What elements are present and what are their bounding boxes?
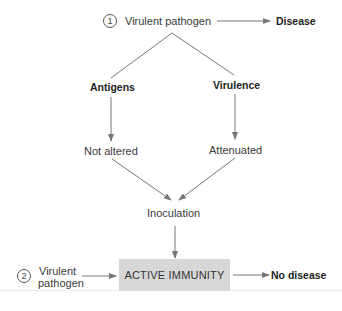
- step-2-badge: 2: [17, 269, 31, 283]
- virulence-label: Virulence: [213, 79, 260, 91]
- virulent-pathogen-label: Virulent pathogen: [125, 15, 211, 27]
- virulent-pathogen-2-label: Virulent pathogen: [38, 265, 84, 289]
- attenuated-label: Attenuated: [209, 144, 262, 156]
- no-disease-label: No disease: [271, 269, 326, 281]
- inoculation-label: Inoculation: [147, 207, 200, 219]
- arrow-attenuated-to-inoculation: [179, 158, 235, 200]
- active-immunity-label: ACTIVE IMMUNITY: [124, 269, 224, 281]
- split-line-right: [172, 33, 234, 75]
- active-immunity-box: ACTIVE IMMUNITY: [119, 259, 230, 291]
- arrow-not-altered-to-inoculation: [112, 159, 171, 200]
- disease-label: Disease: [276, 15, 316, 27]
- virulent-pathogen-2-line1: Virulent: [38, 265, 84, 277]
- antigens-label: Antigens: [90, 81, 135, 93]
- step-1-badge: 1: [103, 14, 117, 28]
- split-line-left: [111, 33, 172, 78]
- virulent-pathogen-2-line2: pathogen: [38, 277, 84, 289]
- not-altered-label: Not altered: [84, 145, 138, 157]
